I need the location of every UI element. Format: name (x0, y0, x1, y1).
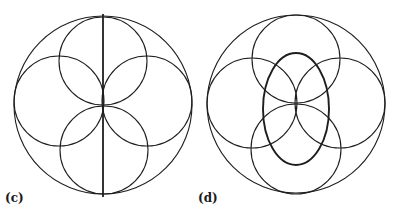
figure-c-label: (c) (5, 191, 24, 205)
inner-circle-right (295, 58, 385, 148)
geometric-diagram (0, 0, 394, 211)
figure-d-label: (d) (198, 191, 218, 205)
inner-circle-right (102, 56, 192, 146)
central-ellipse (263, 53, 329, 165)
inner-circle-left (14, 56, 104, 146)
figure-d (207, 15, 385, 194)
inner-circle-bottom (251, 104, 341, 194)
figure-c (14, 14, 192, 197)
inner-circle-bottom (60, 106, 148, 194)
inner-circle-left (207, 58, 297, 148)
